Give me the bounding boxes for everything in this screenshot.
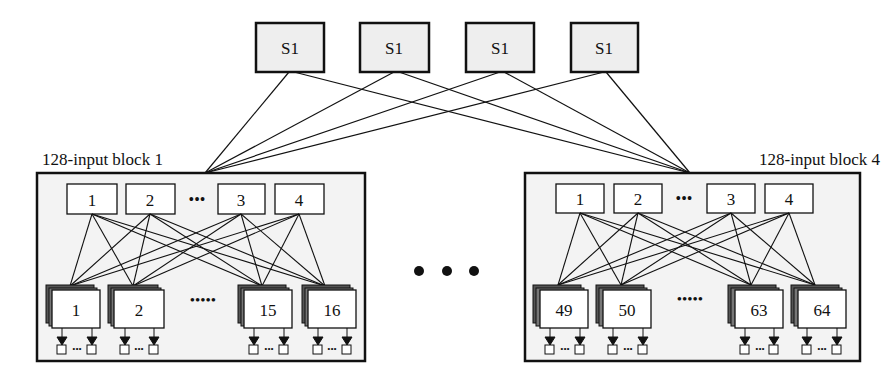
diagram-canvas: S1 S1 S1 S1 128-input block 1 1	[0, 0, 891, 379]
stacked-node: 1	[46, 285, 100, 328]
svg-text:•••: •••	[72, 344, 81, 354]
node-label: 3	[237, 191, 246, 210]
stacked-node: 50	[596, 285, 651, 328]
node-label: 63	[751, 301, 768, 320]
node-label: 2	[146, 191, 155, 210]
switch-s1-3: S1	[466, 23, 534, 72]
switch-block-links	[205, 72, 690, 173]
node-label: 1	[576, 190, 585, 209]
block-4: 128-input block 4 1 2 ••• 3 4 49	[525, 150, 880, 361]
switch-label: S1	[491, 39, 509, 58]
svg-text:•••: •••	[134, 344, 143, 354]
node-label: 3	[727, 190, 736, 209]
stacked-node: 49	[533, 285, 588, 328]
node-label: 2	[135, 301, 144, 320]
node-label: 49	[556, 301, 573, 320]
block-title: 128-input block 1	[42, 150, 163, 169]
node-label: 1	[88, 191, 97, 210]
switch-s1-4: S1	[571, 23, 638, 72]
svg-text:•••: •••	[623, 344, 632, 354]
block-title: 128-input block 4	[759, 150, 880, 169]
svg-text:•••: •••	[755, 344, 764, 354]
stacked-node: 64	[791, 285, 846, 328]
stacked-node: 63	[728, 285, 783, 328]
svg-text:•••: •••	[327, 344, 336, 354]
node-label: 1	[72, 301, 81, 320]
switch-label: S1	[595, 39, 613, 58]
node-label: 50	[619, 301, 636, 320]
ellipsis: •••••	[190, 292, 216, 308]
switch-label: S1	[385, 39, 403, 58]
svg-text:•••: •••	[817, 344, 826, 354]
svg-text:•••: •••	[264, 344, 273, 354]
top-switch-layer: S1 S1 S1 S1	[256, 23, 638, 72]
switch-s1-2: S1	[360, 23, 429, 72]
stacked-node: 2	[108, 285, 164, 328]
svg-text:•••: •••	[560, 344, 569, 354]
node-label: 2	[634, 190, 643, 209]
node-label: 4	[295, 191, 304, 210]
ellipsis: •••••	[677, 291, 703, 307]
stacked-node: 15	[238, 285, 292, 328]
node-label: 4	[785, 190, 794, 209]
ellipsis: •••	[189, 191, 206, 208]
block-1: 128-input block 1 1 2 ••• 3 4	[37, 150, 365, 361]
switch-label: S1	[281, 39, 299, 58]
switch-s1-1: S1	[256, 23, 324, 72]
node-label: 16	[324, 301, 341, 320]
blocks-ellipsis	[414, 266, 479, 276]
stacked-node: 16	[302, 285, 356, 328]
ellipsis: •••	[676, 190, 693, 207]
node-label: 64	[814, 301, 832, 320]
node-label: 15	[260, 301, 277, 320]
